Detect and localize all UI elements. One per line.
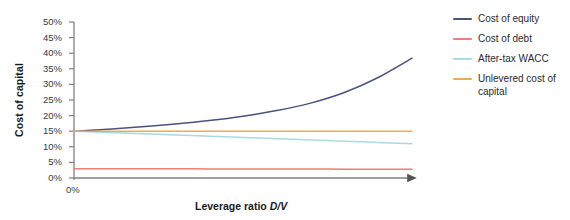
chart-legend: Cost of equityCost of debtAfter-tax WACC… [453, 12, 570, 105]
y-axis-tick-label: 0% [26, 172, 62, 183]
legend-item: After-tax WACC [453, 52, 570, 65]
x-axis-title: Leverage ratio D/V [195, 200, 287, 212]
y-axis-tick-label: 20% [26, 110, 62, 121]
legend-color-swatch [453, 38, 472, 40]
y-axis-tick-label: 15% [26, 125, 62, 136]
legend-label: Cost of equity [478, 12, 539, 25]
legend-color-swatch [453, 78, 472, 80]
chart-figure: Cost of capital Cost of equityCost of de… [0, 0, 570, 220]
legend-item: Unlevered cost of capital [453, 72, 570, 98]
y-axis-tick-label: 25% [26, 94, 62, 105]
y-axis-tick-label: 10% [26, 141, 62, 152]
legend-color-swatch [453, 58, 472, 60]
y-axis-tick-label: 50% [26, 16, 62, 27]
series-line [74, 169, 412, 170]
y-axis-tick-label: 45% [26, 32, 62, 43]
series-line [74, 58, 412, 131]
y-axis-tick-label: 5% [26, 156, 62, 167]
x-axis-title-symbol: D/V [270, 200, 288, 212]
legend-item: Cost of equity [453, 12, 570, 25]
legend-label: Unlevered cost of capital [478, 72, 570, 98]
legend-item: Cost of debt [453, 32, 570, 45]
y-axis-tick-label: 30% [26, 78, 62, 89]
x-axis-title-text: Leverage ratio [195, 200, 270, 212]
legend-label: Cost of debt [478, 32, 532, 45]
legend-label: After-tax WACC [478, 52, 549, 65]
y-axis-tick-label: 35% [26, 63, 62, 74]
series-line [74, 131, 412, 143]
y-axis-title: Cost of capital [13, 63, 25, 137]
x-axis-tick-label: 0% [66, 184, 80, 195]
y-axis-tick-label: 40% [26, 47, 62, 58]
legend-color-swatch [453, 18, 472, 20]
